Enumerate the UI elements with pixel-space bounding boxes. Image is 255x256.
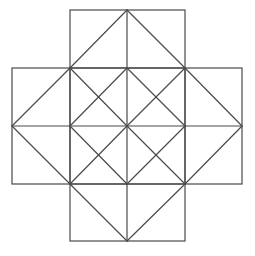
segment-line — [70, 184, 127, 241]
segment-line — [70, 10, 127, 68]
diagram-canvas — [0, 0, 255, 256]
cross-grid-figure — [0, 0, 255, 256]
segment-line — [185, 126, 242, 184]
segment-line — [127, 184, 185, 241]
segment-line — [12, 126, 70, 184]
segment-line — [185, 68, 242, 126]
diagonal-lines — [12, 10, 242, 241]
segment-line — [127, 10, 185, 68]
segment-line — [12, 68, 70, 126]
